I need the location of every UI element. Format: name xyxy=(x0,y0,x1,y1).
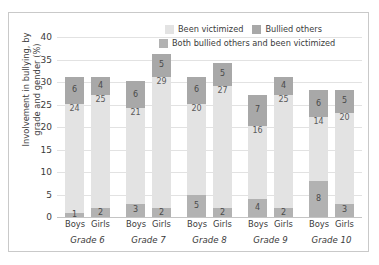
gender-label: Girls xyxy=(91,218,110,230)
bar-value-label: 2 xyxy=(281,209,286,217)
bar-value-label: 25 xyxy=(95,96,105,104)
bar-value-label: 21 xyxy=(130,109,140,117)
bar-segment[interactable]: 6 xyxy=(187,77,206,104)
y-tick-25: 25 xyxy=(41,100,52,110)
bar-value-label: 2 xyxy=(98,209,103,217)
y-tick-20: 20 xyxy=(41,122,52,132)
bar-segment[interactable]: 2 xyxy=(274,208,293,217)
grade-label: Grade 6 xyxy=(57,235,118,245)
gender-label-row: BoysGirls xyxy=(57,218,118,230)
gender-label: Girls xyxy=(274,218,293,230)
bar-value-label: 20 xyxy=(339,114,349,122)
bar-segment[interactable]: 5 xyxy=(152,54,171,77)
gender-label-row: BoysGirls xyxy=(301,218,362,230)
bar-segment[interactable]: 3 xyxy=(126,204,145,218)
legend-label-been-victimized: Been victimized xyxy=(178,24,243,34)
bar-group: 62135292 xyxy=(118,37,179,217)
y-tick-0: 0 xyxy=(46,212,52,222)
stacked-bar[interactable]: 5203 xyxy=(335,90,354,217)
grade-label: Grade 8 xyxy=(179,235,240,245)
gender-label: Boys xyxy=(248,218,267,230)
gender-label: Boys xyxy=(65,218,84,230)
y-tick-15: 15 xyxy=(41,145,52,155)
bar-group: 61485203 xyxy=(301,37,362,217)
gender-label: Girls xyxy=(335,218,354,230)
bar-value-label: 29 xyxy=(156,78,166,86)
bar-value-label: 25 xyxy=(278,96,288,104)
bar-segment[interactable]: 5 xyxy=(213,63,232,86)
gender-label-row: BoysGirls xyxy=(118,218,179,230)
stacked-bar[interactable]: 7164 xyxy=(248,95,267,218)
gender-label: Boys xyxy=(187,218,206,230)
bar-segment[interactable]: 2 xyxy=(91,208,110,217)
bar-segment[interactable]: 5 xyxy=(187,195,206,218)
y-axis-title: Involvement in bullying, by grade and ge… xyxy=(21,20,42,160)
bar-value-label: 6 xyxy=(316,100,321,108)
gender-label-row: BoysGirls xyxy=(240,218,301,230)
stacked-bar[interactable]: 6241 xyxy=(65,77,84,218)
x-group-labels: BoysGirlsGrade 8 xyxy=(179,218,240,252)
gender-label: Girls xyxy=(152,218,171,230)
y-tick-5: 5 xyxy=(46,190,52,200)
bar-group: 62055272 xyxy=(179,37,240,217)
bar-segment[interactable]: 20 xyxy=(187,104,206,195)
bar-segment[interactable]: 27 xyxy=(213,86,232,209)
bar-segment[interactable]: 14 xyxy=(309,117,328,181)
bar-segment[interactable]: 24 xyxy=(65,104,84,213)
bar-segment[interactable]: 16 xyxy=(248,126,267,199)
legend-swatch-bullied-others xyxy=(252,25,261,34)
legend-label-bullied-others: Bullied others xyxy=(265,24,322,34)
bar-value-label: 20 xyxy=(191,105,201,113)
bar-value-label: 2 xyxy=(159,209,164,217)
bar-segment[interactable]: 4 xyxy=(274,77,293,95)
bar-value-label: 5 xyxy=(342,97,347,105)
bar-segment[interactable]: 4 xyxy=(248,199,267,217)
bar-value-label: 5 xyxy=(220,70,225,78)
legend-item-been-victimized[interactable]: Been victimized xyxy=(165,24,243,34)
y-tick-10: 10 xyxy=(41,167,52,177)
bar-value-label: 3 xyxy=(133,206,138,214)
grade-label: Grade 10 xyxy=(301,235,362,245)
bar-segment[interactable]: 29 xyxy=(152,77,171,209)
gender-label-row: BoysGirls xyxy=(179,218,240,230)
gender-label: Boys xyxy=(126,218,145,230)
stacked-bar[interactable]: 5272 xyxy=(213,63,232,217)
stacked-bar[interactable]: 6148 xyxy=(309,90,328,217)
bar-segment[interactable]: 4 xyxy=(91,77,110,95)
x-axis-labels: BoysGirlsGrade 6BoysGirlsGrade 7BoysGirl… xyxy=(57,218,362,252)
stacked-bar[interactable]: 6213 xyxy=(126,81,145,217)
plot-area: 4035302520151050 62414252621352926205527… xyxy=(57,37,362,217)
grade-label: Grade 7 xyxy=(118,235,179,245)
bar-value-label: 2 xyxy=(220,209,225,217)
bar-segment[interactable]: 6 xyxy=(65,77,84,104)
bar-value-label: 16 xyxy=(252,127,262,135)
stacked-bar[interactable]: 4252 xyxy=(274,77,293,218)
bar-value-label: 3 xyxy=(342,206,347,214)
x-group-labels: BoysGirlsGrade 7 xyxy=(118,218,179,252)
stacked-bar[interactable]: 6205 xyxy=(187,77,206,218)
legend-item-bullied-others[interactable]: Bullied others xyxy=(252,24,322,34)
bar-value-label: 27 xyxy=(217,87,227,95)
bar-segment[interactable]: 1 xyxy=(65,213,84,218)
bar-segment[interactable]: 3 xyxy=(335,204,354,218)
bar-segment[interactable]: 21 xyxy=(126,108,145,204)
bar-value-label: 5 xyxy=(194,202,199,210)
bar-value-label: 6 xyxy=(194,86,199,94)
bar-value-label: 5 xyxy=(159,61,164,69)
bar-segment[interactable]: 2 xyxy=(152,208,171,217)
bar-segment[interactable]: 5 xyxy=(335,90,354,113)
bar-segment[interactable]: 6 xyxy=(309,90,328,117)
stacked-bar[interactable]: 4252 xyxy=(91,77,110,218)
y-tick-30: 30 xyxy=(41,77,52,87)
bar-groups: 6241425262135292620552727164425261485203 xyxy=(57,37,362,217)
bar-segment[interactable]: 6 xyxy=(126,81,145,108)
bar-segment[interactable]: 8 xyxy=(309,181,328,217)
bar-segment[interactable]: 7 xyxy=(248,95,267,127)
bar-segment[interactable]: 25 xyxy=(274,95,293,209)
stacked-bar[interactable]: 5292 xyxy=(152,54,171,217)
bar-segment[interactable]: 20 xyxy=(335,113,354,204)
bar-segment[interactable]: 2 xyxy=(213,208,232,217)
bar-segment[interactable]: 25 xyxy=(91,95,110,209)
bar-value-label: 4 xyxy=(255,204,260,212)
bar-value-label: 7 xyxy=(255,106,260,114)
